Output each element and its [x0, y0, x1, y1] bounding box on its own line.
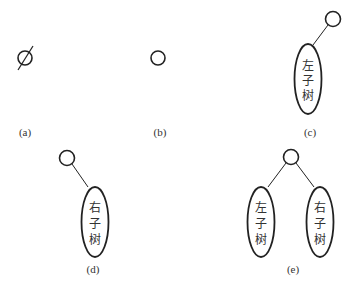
- subtree-text: 子: [89, 217, 101, 231]
- subtree-text: 子: [255, 217, 267, 231]
- subtree-text: 右: [314, 200, 326, 215]
- label-d: (d): [87, 263, 100, 276]
- subtree-text: 子: [302, 74, 314, 88]
- edge-left: [268, 163, 286, 187]
- panel-d-right-subtree: 右 子 树 (d): [60, 151, 109, 277]
- subtree-text: 子: [314, 217, 326, 231]
- label-b: (b): [154, 126, 167, 139]
- subtree-text: 树: [302, 88, 314, 103]
- empty-slash: [18, 46, 33, 70]
- subtree-text: 左: [255, 200, 267, 215]
- subtree-text: 树: [314, 232, 326, 247]
- subtree-text: 右: [89, 200, 101, 215]
- binary-tree-forms-diagram: (a) (b) 左 子 树 (c) 右 子 树 (d) 左 子 树 右 子 树: [0, 0, 362, 287]
- root-node: [284, 150, 299, 165]
- panel-a-empty-tree: (a): [18, 46, 33, 139]
- root-node: [151, 51, 165, 65]
- edge-left: [313, 25, 328, 45]
- edge-right: [72, 164, 88, 187]
- panel-c-left-subtree: 左 子 树 (c): [295, 12, 341, 140]
- subtree-text: 左: [302, 58, 314, 73]
- panel-b-single-node: (b): [151, 51, 167, 139]
- label-a: (a): [19, 126, 32, 139]
- subtree-text: 树: [255, 232, 267, 247]
- edge-right: [296, 163, 314, 187]
- subtree-text: 树: [89, 232, 101, 247]
- label-c: (c): [304, 126, 317, 139]
- panel-e-both-subtrees: 左 子 树 右 子 树 (e): [248, 150, 334, 277]
- root-node: [60, 151, 75, 166]
- root-node: [326, 12, 341, 27]
- label-e: (e): [287, 263, 300, 276]
